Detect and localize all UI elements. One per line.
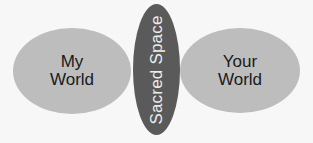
your-world-line1: Your [218, 53, 262, 71]
your-world-label: Your World [218, 53, 262, 89]
your-world-oval: Your World [180, 28, 300, 113]
diagram-canvas: My World Sacred Space Your World [0, 0, 313, 143]
my-world-line1: My [50, 53, 94, 71]
sacred-space-oval: Sacred Space [133, 4, 180, 135]
my-world-oval: My World [13, 28, 131, 114]
sacred-space-label: Sacred Space [147, 15, 167, 124]
my-world-label: My World [50, 53, 94, 89]
your-world-line2: World [218, 71, 262, 89]
my-world-line2: World [50, 71, 94, 89]
